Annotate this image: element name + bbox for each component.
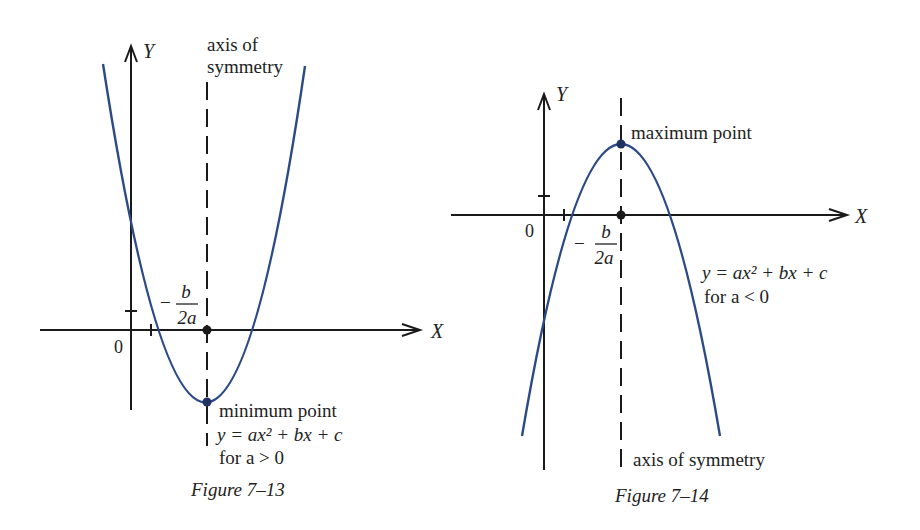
vertex-x-label-sign: −: [574, 233, 585, 254]
maximum-point-label: maximum point: [631, 122, 753, 143]
vertex-x-label-den: 2a: [178, 307, 197, 328]
equation-label: y = ax² + bx + c: [700, 262, 828, 283]
vertex-x-point: [203, 326, 212, 335]
vertex-x-label-num: b: [601, 221, 611, 242]
vertex-x-label-den: 2a: [595, 247, 614, 268]
diagram-canvas: Y X 0 axis of symmetry − b 2a minimum po…: [0, 0, 920, 530]
vertex-x-label-num: b: [181, 281, 191, 302]
minimum-point-label: minimum point: [219, 400, 337, 421]
equation-label: y = ax² + bx + c: [215, 424, 343, 445]
symmetry-label-line2: symmetry: [207, 56, 283, 77]
y-axis-label: Y: [556, 83, 569, 105]
vertex-x-label-sign: −: [160, 292, 171, 313]
figure-caption: Figure 7–13: [190, 479, 285, 500]
figure-7-14: Y X 0 axis of symmetry − b 2a maximum po…: [451, 83, 868, 506]
origin-label: 0: [114, 337, 123, 357]
maximum-point: [617, 140, 626, 149]
origin-label: 0: [525, 221, 534, 241]
minimum-point: [203, 398, 212, 407]
figure-caption: Figure 7–14: [614, 485, 709, 506]
condition-label: for a > 0: [219, 447, 284, 468]
x-axis-label: X: [854, 205, 868, 227]
x-axis-label: X: [430, 320, 444, 342]
symmetry-label-line1: axis of: [207, 34, 259, 55]
y-axis-label: Y: [143, 40, 156, 62]
vertex-x-point: [617, 211, 626, 220]
symmetry-label: axis of symmetry: [633, 449, 765, 470]
parabola-curve: [103, 64, 305, 403]
condition-label: for a < 0: [704, 286, 769, 307]
figure-7-13: Y X 0 axis of symmetry − b 2a minimum po…: [40, 34, 444, 500]
